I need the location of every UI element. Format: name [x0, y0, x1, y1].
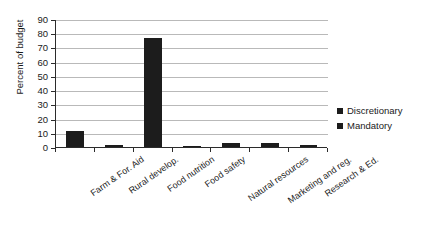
x-axis-tick-mark — [249, 148, 250, 152]
x-axis-tick-mark — [133, 148, 134, 152]
x-axis-tick-mark — [94, 148, 95, 152]
legend-item-mandatory: Mandatory — [337, 118, 402, 133]
y-axis-tick-label: 40 — [22, 86, 48, 96]
x-axis-tick-mark — [172, 148, 173, 152]
y-axis-tick-label: 10 — [22, 129, 48, 139]
gridline — [56, 105, 328, 106]
x-axis-tick-mark — [288, 148, 289, 152]
x-axis-tick-mark — [210, 148, 211, 152]
bar — [222, 143, 240, 147]
bar-chart: Percent of budget 0102030405060708090 Fa… — [0, 0, 430, 230]
gridline — [56, 120, 328, 121]
gridline — [56, 20, 328, 21]
y-axis-tick-label: 30 — [22, 100, 48, 110]
y-axis-tick-label: 50 — [22, 72, 48, 82]
y-axis-tick-label: 60 — [22, 58, 48, 68]
gridline — [56, 91, 328, 92]
gridline — [56, 77, 328, 78]
gridline — [56, 134, 328, 135]
bar — [66, 131, 84, 147]
legend: Discretionary Mandatory — [337, 103, 402, 133]
x-axis-tick-mark — [327, 148, 328, 152]
legend-swatch-icon — [337, 123, 343, 129]
y-axis-tick-label: 20 — [22, 115, 48, 125]
x-axis-tick-mark — [55, 148, 56, 152]
legend-item-discretionary: Discretionary — [337, 103, 402, 118]
gridline — [56, 34, 328, 35]
bar — [105, 145, 123, 147]
y-axis-tick-label: 80 — [22, 29, 48, 39]
legend-swatch-icon — [337, 108, 343, 114]
gridline — [56, 63, 328, 64]
y-axis-tick-label: 90 — [22, 15, 48, 25]
gridline — [56, 48, 328, 49]
legend-item-label: Mandatory — [347, 121, 392, 131]
bar — [183, 146, 201, 148]
bar — [144, 38, 162, 147]
bar — [261, 143, 279, 147]
legend-item-label: Discretionary — [347, 106, 402, 116]
y-axis-tick-label: 0 — [22, 143, 48, 153]
y-axis-tick-label: 70 — [22, 43, 48, 53]
bar — [300, 145, 318, 147]
plot-area — [55, 20, 327, 148]
